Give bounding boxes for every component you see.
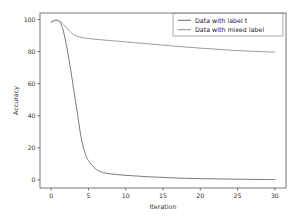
x-tick-label-20: 20 (196, 192, 204, 199)
y-tick-label-60: 60 (28, 80, 36, 87)
accuracy-vs-iteration-chart: 020406080100 051015202530 Data with labe… (0, 0, 297, 219)
y-tick-label-80: 80 (28, 48, 36, 55)
x-tick-label-10: 10 (122, 192, 130, 199)
x-tick-label-30: 30 (271, 192, 279, 199)
plot-frame (40, 13, 286, 188)
y-tick-label-100: 100 (24, 16, 36, 23)
x-tick-label-15: 15 (159, 192, 167, 199)
legend-label-0: Data with label t (195, 17, 248, 24)
y-tick-label-40: 40 (28, 112, 36, 119)
series-line-0 (51, 20, 275, 179)
x-axis-ticks: 051015202530 (49, 188, 279, 199)
y-axis-title: Accuracy (12, 86, 20, 115)
chart-legend: Data with label tData with mixed label (173, 14, 283, 37)
data-series-group (51, 20, 275, 179)
x-tick-label-5: 5 (86, 192, 90, 199)
x-axis-title: Iteration (149, 203, 176, 211)
x-tick-label-25: 25 (234, 192, 242, 199)
y-tick-label-0: 0 (32, 176, 36, 183)
axes-frame (40, 13, 286, 188)
y-axis-ticks: 020406080100 (24, 16, 40, 184)
y-tick-label-20: 20 (28, 144, 36, 151)
legend-label-1: Data with mixed label (195, 26, 264, 33)
figure-canvas: 020406080100 051015202530 Data with labe… (0, 0, 297, 219)
x-tick-label-0: 0 (49, 192, 53, 199)
